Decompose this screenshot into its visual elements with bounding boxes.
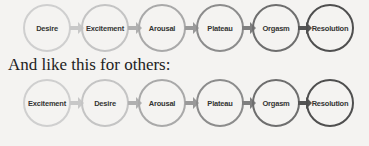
stage-node: Desire: [23, 4, 71, 52]
stage-label: Orgasm: [262, 24, 289, 33]
stage-node: Plateau: [196, 79, 244, 127]
stage-label: Plateau: [207, 24, 232, 33]
stage-label: Orgasm: [262, 99, 289, 108]
stage-node: Resolution: [306, 79, 354, 127]
stage-node: Excitement: [23, 79, 71, 127]
stage-label: Arousal: [149, 24, 176, 33]
stage-node: Plateau: [196, 4, 244, 52]
stage-label: Resolution: [312, 24, 349, 33]
sequence-diagram-top: Desire Excitement Arousal Plateau Orgasm…: [0, 2, 369, 58]
stage-label: Excitement: [28, 99, 66, 108]
stage-node: Desire: [81, 79, 129, 127]
caption-text: And like this for others:: [8, 55, 170, 75]
stage-label: Resolution: [312, 99, 349, 108]
stage-label: Desire: [36, 24, 58, 33]
stage-node: Arousal: [138, 79, 186, 127]
stage-label: Plateau: [207, 99, 232, 108]
stage-label: Excitement: [86, 24, 124, 33]
sequence-diagram-bottom: Excitement Desire Arousal Plateau Orgasm…: [0, 77, 369, 133]
stage-node: Excitement: [81, 4, 129, 52]
stage-node: Resolution: [306, 4, 354, 52]
stage-label: Arousal: [149, 99, 176, 108]
stage-node: Orgasm: [252, 79, 300, 127]
stage-node: Arousal: [138, 4, 186, 52]
stage-node: Orgasm: [252, 4, 300, 52]
stage-label: Desire: [94, 99, 116, 108]
